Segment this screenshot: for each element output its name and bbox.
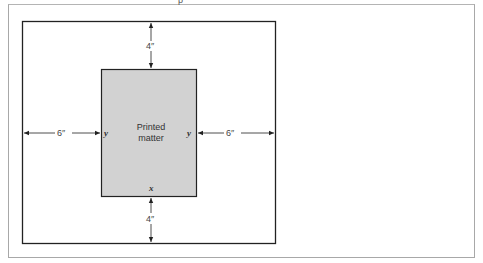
printed-matter-line1: Printed [120, 122, 182, 133]
top-margin-label: 4″ [146, 41, 154, 51]
layout-diagram [0, 0, 483, 263]
right-edge-label: y [187, 128, 191, 138]
left-margin-label: 6″ [57, 128, 65, 138]
right-margin-label: 6″ [226, 128, 234, 138]
left-edge-label: y [104, 128, 108, 138]
bottom-margin-label: 4″ [146, 214, 154, 224]
bottom-edge-label: x [149, 183, 154, 193]
printed-matter-label: Printed matter [120, 122, 182, 144]
printed-matter-line2: matter [120, 133, 182, 144]
